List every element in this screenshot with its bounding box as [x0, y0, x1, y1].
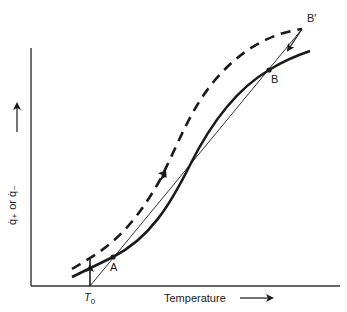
point-a-marker	[110, 254, 115, 259]
point-a-label: A	[110, 262, 117, 273]
dashed-direction-arrow-icon	[156, 167, 171, 182]
point-b-label: B	[271, 74, 278, 85]
point-b-marker	[266, 67, 271, 72]
y-axis-label: q̇₊ or q̇₋	[6, 185, 19, 225]
trajectory-curve	[72, 29, 302, 269]
x-axis-label: Temperature	[164, 293, 226, 304]
heat-loss-line	[90, 29, 302, 286]
diagram-canvas	[0, 0, 347, 312]
t0-tick-label: T0	[84, 292, 95, 306]
point-bprime-label: B′	[307, 13, 316, 24]
